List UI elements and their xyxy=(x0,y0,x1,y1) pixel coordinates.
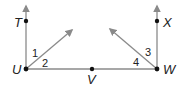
label-w: W xyxy=(163,62,177,77)
point-t xyxy=(24,19,28,23)
label-v: V xyxy=(87,72,97,86)
angle-1-label: 1 xyxy=(32,47,38,59)
label-u: U xyxy=(12,62,22,77)
point-x xyxy=(155,19,159,23)
point-u xyxy=(24,67,29,72)
geometry-diagram: T U V W X 1 2 3 4 xyxy=(0,0,179,86)
point-w xyxy=(155,67,160,72)
angle-2-label: 2 xyxy=(42,57,48,69)
label-x: X xyxy=(162,15,173,30)
point-v xyxy=(90,67,94,71)
angle-3-label: 3 xyxy=(145,46,151,58)
label-t: T xyxy=(14,15,23,30)
angle-4-label: 4 xyxy=(133,56,139,68)
